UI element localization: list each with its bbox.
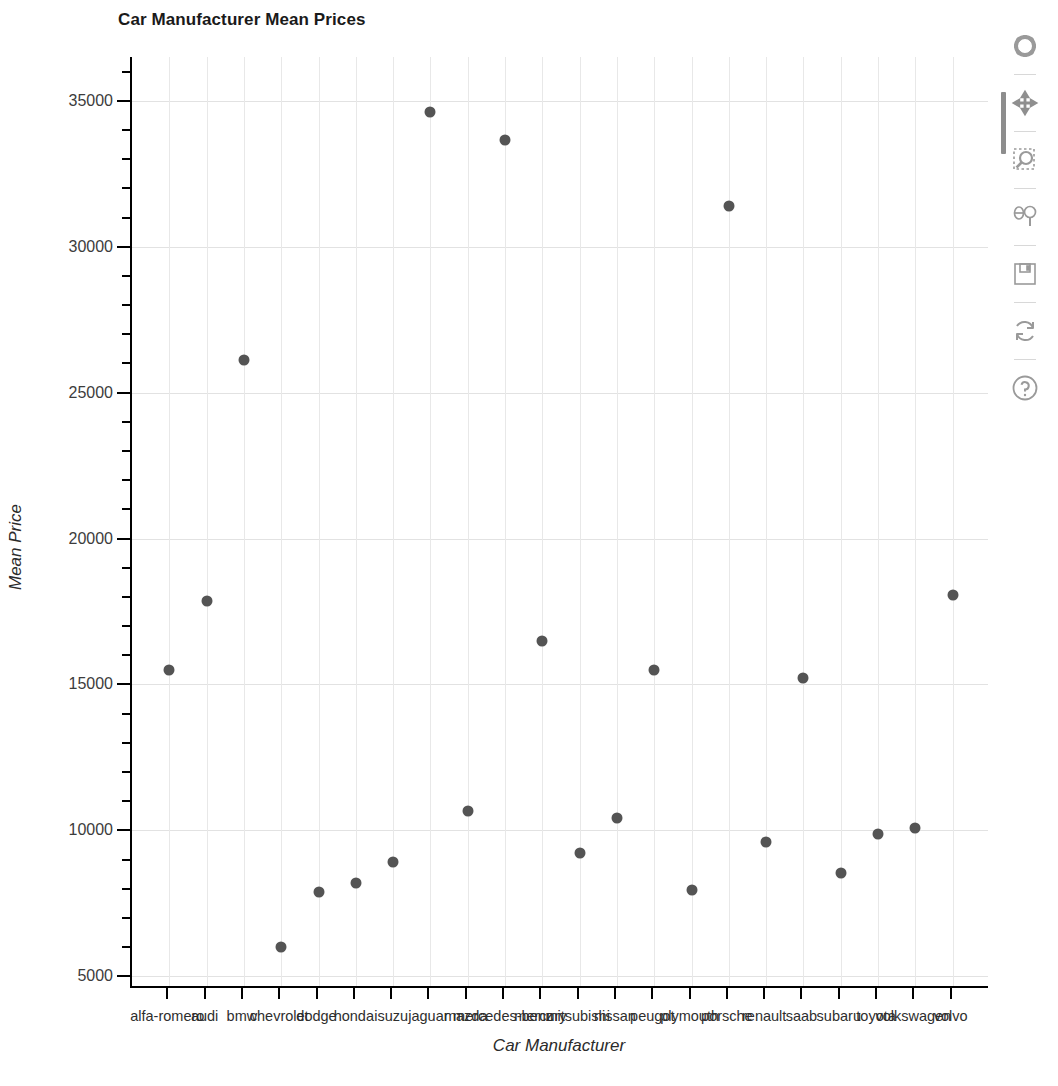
y-tick-minor: [122, 859, 130, 861]
gridline-vertical: [505, 57, 506, 986]
x-tick: [763, 988, 765, 999]
data-point: [276, 941, 287, 952]
x-tick-label: volvo: [934, 1008, 968, 1024]
grid-lines: [132, 57, 988, 986]
gridline-vertical: [617, 57, 618, 986]
y-tick-minor: [122, 187, 130, 189]
y-tick-major: [117, 538, 130, 540]
x-tick: [204, 988, 206, 999]
x-tick: [950, 988, 952, 999]
y-axis-title: Mean Price: [6, 477, 26, 617]
gridline-vertical: [542, 57, 543, 986]
data-point: [574, 847, 585, 858]
x-tick: [726, 988, 728, 999]
data-point: [350, 878, 361, 889]
x-tick: [166, 988, 168, 999]
data-point: [537, 635, 548, 646]
y-tick-minor: [122, 713, 130, 715]
x-tick: [651, 988, 653, 999]
gridline-vertical: [244, 57, 245, 986]
y-tick-label: 35000: [69, 92, 114, 110]
y-tick-minor: [122, 742, 130, 744]
y-tick-major: [117, 100, 130, 102]
x-tick: [689, 988, 691, 999]
x-tick: [838, 988, 840, 999]
data-point: [164, 664, 175, 675]
pan-icon[interactable]: [1005, 83, 1045, 123]
data-point: [947, 590, 958, 601]
y-tick-minor: [122, 946, 130, 948]
x-tick: [912, 988, 914, 999]
x-tick: [465, 988, 467, 999]
x-axis-title: Car Manufacturer: [130, 1036, 988, 1056]
refresh-icon[interactable]: [1005, 311, 1045, 351]
x-tick: [800, 988, 802, 999]
data-point: [500, 135, 511, 146]
y-tick-major: [117, 829, 130, 831]
zoom-rect-icon[interactable]: [1005, 140, 1045, 180]
y-tick-minor: [122, 333, 130, 335]
subplots-icon[interactable]: [1005, 197, 1045, 237]
data-point: [798, 672, 809, 683]
x-tick: [539, 988, 541, 999]
x-axis: Car Manufacturer alfa-romeroaudibmwchevr…: [130, 988, 988, 1083]
x-tick: [353, 988, 355, 999]
data-point: [313, 887, 324, 898]
gridline-horizontal: [132, 247, 988, 248]
x-tick: [390, 988, 392, 999]
data-point: [238, 354, 249, 365]
data-point: [425, 107, 436, 118]
gridline-vertical: [953, 57, 954, 986]
gridline-vertical: [430, 57, 431, 986]
x-tick: [316, 988, 318, 999]
y-tick-label: 15000: [69, 675, 114, 693]
gridline-horizontal: [132, 101, 988, 102]
gridline-vertical: [692, 57, 693, 986]
y-tick-major: [117, 683, 130, 685]
x-tick-label: isuzu: [374, 1008, 408, 1024]
data-point: [388, 857, 399, 868]
plot-area[interactable]: [130, 57, 988, 988]
y-tick-minor: [122, 304, 130, 306]
toolbar-divider: [1014, 74, 1036, 75]
y-tick-label: 30000: [69, 238, 114, 256]
home-icon[interactable]: [1005, 26, 1045, 66]
y-tick-minor: [122, 508, 130, 510]
x-tick-label: saab: [786, 1008, 817, 1024]
y-tick-minor: [122, 596, 130, 598]
data-point: [910, 823, 921, 834]
x-tick-label: jaguar: [408, 1008, 448, 1024]
y-tick-major: [117, 392, 130, 394]
gridline-vertical: [393, 57, 394, 986]
y-tick-minor: [122, 275, 130, 277]
data-point: [201, 596, 212, 607]
y-tick-minor: [122, 479, 130, 481]
y-tick-minor: [122, 421, 130, 423]
data-point: [761, 837, 772, 848]
y-tick-minor: [122, 362, 130, 364]
x-tick-label: renault: [742, 1008, 786, 1024]
help-icon[interactable]: [1005, 368, 1045, 408]
y-axis: Mean Price 50001000015000200002500030000…: [0, 57, 130, 988]
x-tick: [241, 988, 243, 999]
y-tick-minor: [122, 654, 130, 656]
gridline-horizontal: [132, 684, 988, 685]
save-icon[interactable]: [1005, 254, 1045, 294]
y-tick-minor: [122, 158, 130, 160]
x-tick: [427, 988, 429, 999]
gridline-vertical: [654, 57, 655, 986]
figure-canvas: Car Manufacturer Mean Prices Mean Price …: [0, 0, 996, 1086]
toolbar-divider: [1014, 245, 1036, 246]
y-tick-minor: [122, 567, 130, 569]
y-tick-minor: [122, 450, 130, 452]
x-tick-label: dodge: [296, 1008, 336, 1024]
data-point: [462, 806, 473, 817]
y-tick-label: 10000: [69, 821, 114, 839]
gridline-vertical: [281, 57, 282, 986]
data-point: [723, 200, 734, 211]
toolbar-divider: [1014, 131, 1036, 132]
x-tick-label: honda: [334, 1008, 374, 1024]
toolbar-divider: [1014, 188, 1036, 189]
gridline-horizontal: [132, 539, 988, 540]
data-point: [611, 813, 622, 824]
